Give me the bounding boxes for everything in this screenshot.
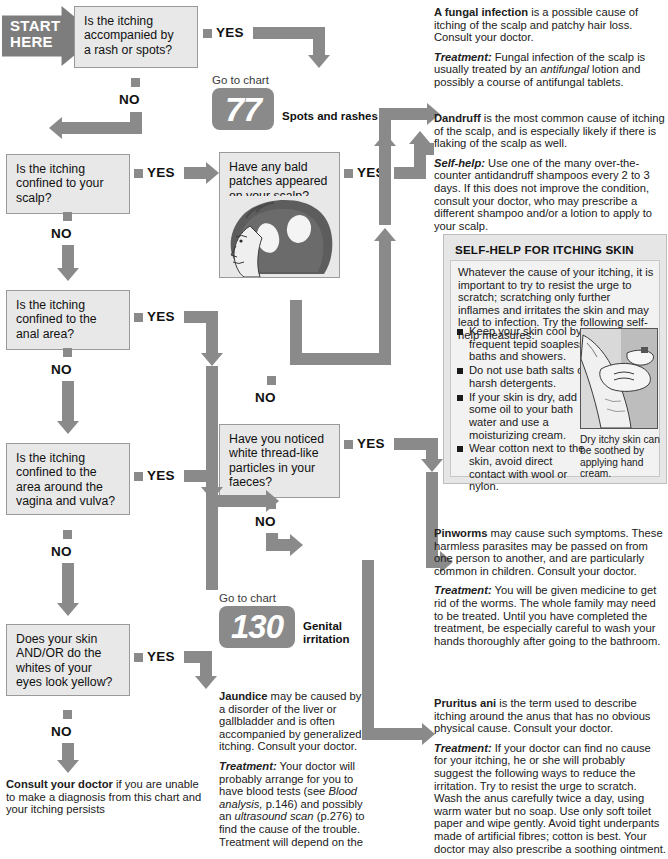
question-text: Is the itching confined to the anal area… [16,298,121,341]
yes-marker-q5 [134,653,143,662]
no-marker-q6 [267,376,276,385]
goto-chart-77-prefix: Go to chart [212,74,269,86]
question-text: Is the itching accompanied by a rash or … [84,14,189,57]
chart-130-name: Genital irritation [303,620,350,645]
no-label-q5: NO [51,724,72,739]
arrow-q1-yes-head [308,55,330,68]
chart-130-badge[interactable]: 130 [219,606,295,648]
yes-label-q3: YES [147,309,175,324]
chart-77-badge[interactable]: 77 [212,88,274,130]
advice-pinworms: Pinworms may cause such symptoms. These … [434,527,666,654]
goto-chart-130-prefix: Go to chart [219,592,276,604]
self-help-bullet: Do not use bath salts or harsh detergent… [456,364,588,389]
arrow-q2-no-v [62,245,74,269]
yes-label-q2: YES [147,165,175,180]
pinworms-treatment-label: Treatment: [434,584,492,596]
hand-cream-illustration [580,328,658,429]
yes-marker-q7 [344,440,353,449]
yes-label-q5: YES [147,649,175,664]
arrow-dandruff-v-mid [379,145,391,225]
self-help-bullet: Wear cotton next to the skin, avoid dire… [456,442,588,493]
arrow-q4-yes-head [201,487,223,500]
arrow-q3-no-v [62,381,74,422]
arrow-q3-yes-v1 [206,311,218,354]
yes-marker-q4 [134,472,143,481]
arrow-q5-no-head [57,760,79,773]
arrow-q6-no-h [290,353,391,365]
no-label-q1: NO [119,92,140,107]
arrow-q2-yes-h [184,167,206,179]
self-help-title: SELF-HELP FOR ITCHING SKIN [455,243,634,256]
no-label-q2: NO [51,226,72,241]
yes-marker-q2 [134,169,143,178]
arrow-q1-no-head [49,117,62,139]
question-box-scalp[interactable]: Is the itching confined to your scalp? [6,154,130,214]
yes-label-q1: YES [216,25,244,40]
arrow-q7-yes-v1 [426,438,438,460]
no-marker-q5 [63,710,72,719]
question-text: Does your skin AND/OR do the whites of y… [16,632,121,690]
arrow-q5-yes-head [195,676,217,689]
advice-dandruff: Dandruff is the most common cause of itc… [434,112,666,239]
advice-jaundice: Jaundice may be caused by a disorder of … [219,690,369,855]
arrow-q7-no-h [266,539,290,551]
question-box-anal-area[interactable]: Is the itching confined to the anal area… [6,290,130,350]
arrow-q6-yes-h2 [414,143,434,155]
fungal-treatment-em: antifungal [540,63,589,75]
no-marker-q3 [63,348,72,357]
question-box-thread-particles[interactable]: Have you noticed white thread-like parti… [219,424,340,498]
pruritus-lead: Pruritus ani [434,697,496,709]
arrow-q7-yes-head1 [421,459,443,472]
self-help-bullet: If your skin is dry, add some oil to you… [456,391,588,442]
arrow-q4-no-head [57,603,79,616]
advice-fungal-infection: A fungal infection is a possible cause o… [434,6,666,96]
footer-consult-doctor: Consult your doctor if you are unable to… [6,778,206,816]
question-box-vagina-vulva[interactable]: Is the itching confined to the area arou… [6,443,130,515]
bald-patches-illustration [220,196,339,277]
advice-pruritus-ani: Pruritus ani is the term used to describ… [434,697,666,859]
yes-marker-q1 [203,29,212,38]
arrow-dandruff-up-head2 [374,228,396,241]
jaundice-em-ultrasound: ultrasound scan [235,810,314,822]
chart-77-name: Spots and rashes [282,110,378,123]
yes-label-q4: YES [147,468,175,483]
no-label-q7: NO [255,514,276,529]
arrow-q5-no-v [62,743,74,761]
hand-cream-caption: Dry itchy skin can be soothed by applyin… [580,434,662,480]
dandruff-selfhelp-label: Self-help: [434,157,485,169]
yes-marker-q3 [134,313,143,322]
jaundice-treatment-label: Treatment: [219,760,277,772]
question-box-yellow-eyes[interactable]: Does your skin AND/OR do the whites of y… [6,624,130,696]
arrow-q2-yes-head [206,162,219,184]
no-marker-q1 [131,78,140,87]
no-label-q3: NO [51,362,72,377]
arrow-dandruff-v-low [379,240,391,365]
arrow-pruritus-h [362,728,422,740]
yes-label-q7: YES [357,436,385,451]
arrow-q6-yes-head [409,131,431,144]
self-help-bullets: Keep your skin cool by frequent tepid so… [456,325,588,494]
arrow-q1-yes-v [313,27,325,55]
jaundice-lead: Jaundice [219,690,268,702]
no-marker-q2 [63,212,72,221]
arrow-q2-no-head [57,268,79,281]
arrow-dandruff-up-head1 [374,133,396,146]
arrow-q4-no-v [62,563,74,604]
no-label-q6: NO [255,390,276,405]
footer-lead: Consult your doctor [6,778,113,790]
arrow-q1-no-h [62,122,142,134]
no-marker-q4 [63,530,72,539]
arrow-q3-no-head [57,421,79,434]
arrow-q6-no-v [290,300,302,365]
arrow-q3-yes-head1 [201,353,223,366]
arrow-dandruff-h-top [379,108,427,120]
pinworms-lead: Pinworms [434,527,487,539]
arrow-q5-yes-v [200,651,212,677]
arrow-q7-no-head [290,534,303,556]
pruritus-treatment-rest: If your doctor can find no cause for you… [434,742,666,855]
question-text: Have you noticed white thread-like parti… [229,432,331,490]
question-text: Is the itching confined to the area arou… [16,451,121,509]
question-box-rash-or-spots[interactable]: Is the itching accompanied by a rash or … [74,6,198,68]
dandruff-lead: Dandruff [434,112,481,124]
yes-marker-q6 [344,169,353,178]
